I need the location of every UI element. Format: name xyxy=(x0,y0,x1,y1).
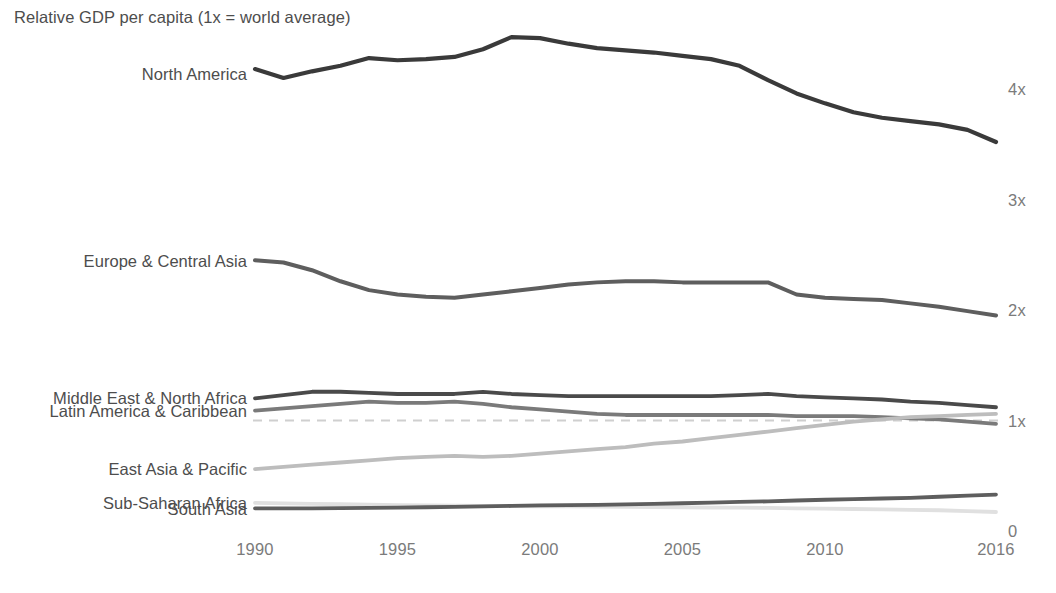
y-tick-3x: 3x xyxy=(1008,190,1026,209)
y-tick-1x: 1x xyxy=(1008,411,1026,430)
series-line-europe-central-asia[interactable] xyxy=(255,260,996,315)
y-tick-0: 0 xyxy=(1008,522,1017,541)
series-lines xyxy=(255,37,996,512)
chart-container: Relative GDP per capita (1x = world aver… xyxy=(0,0,1056,593)
x-tick-2000: 2000 xyxy=(521,540,559,559)
series-line-north-america[interactable] xyxy=(255,37,996,142)
y-tick-4x: 4x xyxy=(1008,80,1026,99)
x-tick-2005: 2005 xyxy=(664,540,702,559)
series-label-north-america: North America xyxy=(142,64,247,83)
y-tick-2x: 2x xyxy=(1008,301,1026,320)
series-label-south-asia: South Asia xyxy=(168,500,247,519)
series-label-latin-america-caribbean: Latin America & Caribbean xyxy=(49,401,247,420)
series-line-east-asia-pacific[interactable] xyxy=(255,414,996,469)
x-tick-1995: 1995 xyxy=(379,540,417,559)
x-tick-2016: 2016 xyxy=(977,540,1015,559)
series-label-europe-central-asia: Europe & Central Asia xyxy=(84,252,247,271)
series-label-east-asia-pacific: East Asia & Pacific xyxy=(108,460,247,479)
series-line-middle-east-north-africa[interactable] xyxy=(255,392,996,407)
x-tick-1990: 1990 xyxy=(236,540,274,559)
x-tick-2010: 2010 xyxy=(806,540,844,559)
